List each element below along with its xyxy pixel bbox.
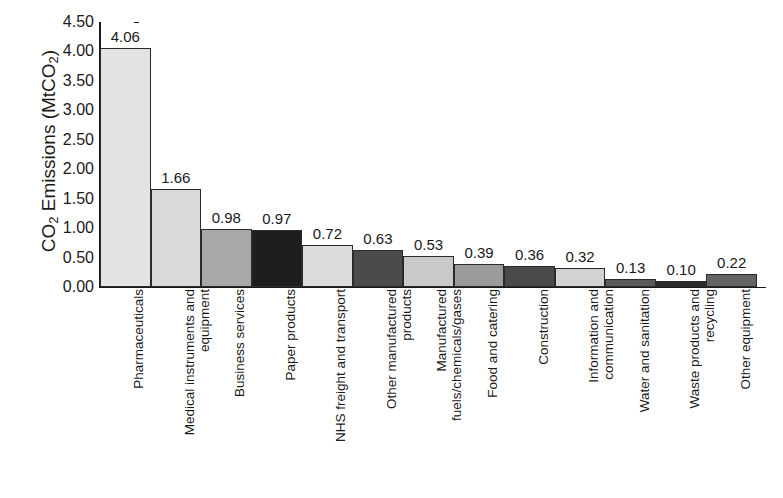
- bar-slot: 1.66: [151, 22, 202, 287]
- y-axis-tick-label: 4.50: [40, 14, 94, 30]
- x-axis-label-slot: Other equipment: [706, 289, 757, 498]
- y-axis-tick-label: 3.50: [40, 73, 94, 89]
- bar-slot: 4.06: [100, 22, 151, 287]
- y-axis-tick-labels: 4.504.003.503.002.502.001.501.000.500.00: [40, 0, 94, 498]
- bar[interactable]: [605, 279, 656, 287]
- y-axis-tick-label: 2.00: [40, 161, 94, 177]
- bar-slot: 0.72: [302, 22, 353, 287]
- x-axis-category-label: Water and sanitation: [637, 289, 652, 494]
- bar-value-label: 0.22: [692, 255, 771, 270]
- bar-slot: 0.22: [706, 22, 757, 287]
- bar[interactable]: [403, 256, 454, 287]
- x-axis-label-slot: Food and catering: [454, 289, 505, 498]
- x-axis-label-slot: Water and sanitation: [605, 289, 656, 498]
- x-axis-category-label: Business services: [232, 289, 247, 494]
- x-axis-category-labels: PharmaceuticalsMedical instruments and e…: [100, 289, 757, 498]
- bar-chart: CO2 Emissions (MtCO2) 4.504.003.503.002.…: [0, 0, 783, 498]
- x-axis-label-slot: Waste products and recycling: [656, 289, 707, 498]
- bar[interactable]: [353, 250, 404, 287]
- x-axis-label-slot: Medical instruments and equipment: [151, 289, 202, 498]
- x-axis-line: [99, 287, 766, 288]
- y-axis-tick-label: 3.00: [40, 102, 94, 118]
- x-axis-label-slot: NHS freight and transport: [302, 289, 353, 498]
- x-axis-category-label: Food and catering: [485, 289, 500, 494]
- bar-slot: 0.32: [555, 22, 606, 287]
- y-axis-tick-label: 1.50: [40, 191, 94, 207]
- bar-slot: 0.13: [605, 22, 656, 287]
- bar[interactable]: [151, 189, 202, 287]
- x-axis-label-slot: Manufactured fuels/chemicals/gases: [403, 289, 454, 498]
- x-axis-category-label: Construction: [536, 289, 551, 494]
- bar[interactable]: [706, 274, 757, 287]
- x-axis-category-label: NHS freight and transport: [333, 289, 348, 494]
- bar[interactable]: [302, 245, 353, 287]
- plot-area: 4.061.660.980.970.720.630.530.390.360.32…: [100, 22, 757, 287]
- y-axis-tick-label: 0.00: [40, 279, 94, 295]
- y-axis-tick-label: 4.00: [40, 43, 94, 59]
- y-axis-tick-label: 1.00: [40, 220, 94, 236]
- x-axis-label-slot: Information and communication: [555, 289, 606, 498]
- y-axis-tick-label: 0.50: [40, 250, 94, 266]
- bar-slot: 0.36: [504, 22, 555, 287]
- bar-slot: 0.97: [252, 22, 303, 287]
- x-axis-label-slot: Pharmaceuticals: [100, 289, 151, 498]
- y-axis-tick-label: 2.50: [40, 132, 94, 148]
- bar-slot: 0.98: [201, 22, 252, 287]
- x-axis-label-slot: Other manufactured products: [353, 289, 404, 498]
- bar[interactable]: [504, 266, 555, 287]
- x-axis-label-slot: Business services: [201, 289, 252, 498]
- x-axis-label-slot: Construction: [504, 289, 555, 498]
- x-axis-category-label: Paper products: [283, 289, 298, 494]
- bar[interactable]: [201, 229, 252, 287]
- x-axis-label-slot: Paper products: [252, 289, 303, 498]
- bar[interactable]: [454, 264, 505, 287]
- x-axis-category-label: Pharmaceuticals: [131, 289, 146, 494]
- bar[interactable]: [656, 281, 707, 287]
- bar-slot: 0.10: [656, 22, 707, 287]
- x-axis-category-label: Other equipment: [738, 289, 753, 494]
- bar[interactable]: [100, 48, 151, 287]
